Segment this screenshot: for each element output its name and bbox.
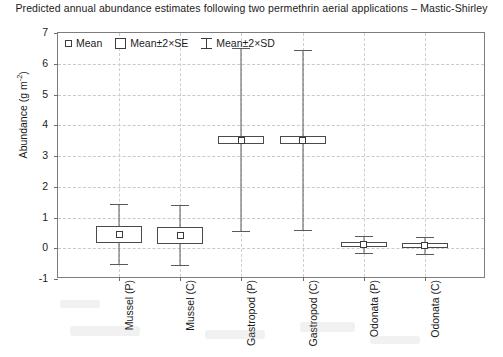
sd-cap-upper xyxy=(171,205,189,206)
gridline-horizontal xyxy=(58,187,484,188)
gridline-horizontal xyxy=(58,248,484,249)
gridline-horizontal xyxy=(58,125,484,126)
y-tick-label: -1 xyxy=(39,272,48,284)
mean-marker xyxy=(238,137,245,144)
y-tick-label: 5 xyxy=(42,88,48,100)
mean-marker-icon xyxy=(65,40,72,47)
se-box-icon xyxy=(115,38,126,49)
sd-cap-lower xyxy=(171,265,189,266)
scan-artifact xyxy=(370,336,420,344)
legend-item-se: Mean±2×SE xyxy=(115,37,188,49)
y-tick-mark xyxy=(54,218,58,219)
sd-cap-lower xyxy=(294,230,312,231)
y-axis-tick-labels: -101234567 xyxy=(0,32,55,278)
scan-artifact xyxy=(205,330,265,339)
y-tick-mark xyxy=(54,95,58,96)
chart-title: Predicted annual abundance estimates fol… xyxy=(0,2,503,14)
y-tick-label: 3 xyxy=(42,149,48,161)
y-tick-label: 2 xyxy=(42,180,48,192)
gridline-horizontal xyxy=(58,64,484,65)
gridline-horizontal xyxy=(58,218,484,219)
sd-cap-lower xyxy=(416,254,434,255)
gridline-horizontal xyxy=(58,156,484,157)
legend-item-mean: Mean xyxy=(65,37,102,49)
y-tick-mark xyxy=(54,248,58,249)
mean-marker xyxy=(299,137,306,144)
error-bar-icon xyxy=(201,38,212,49)
x-tick-label: Odonata (P) xyxy=(368,280,380,337)
sd-cap-upper xyxy=(110,204,128,205)
y-tick-label: 4 xyxy=(42,118,48,130)
x-axis-tick-labels: Mussel (P)Mussel (C)Gastropod (P)Gastrop… xyxy=(57,278,485,357)
mean-marker xyxy=(116,231,123,238)
x-tick-label: Odonata (C) xyxy=(429,280,441,338)
legend-label-se: Mean±2×SE xyxy=(130,37,188,49)
y-tick-mark xyxy=(54,33,58,34)
scan-artifact xyxy=(300,322,355,332)
sd-cap-lower xyxy=(110,264,128,265)
gridline-horizontal xyxy=(58,95,484,96)
sd-cap-upper xyxy=(416,237,434,238)
y-tick-label: 7 xyxy=(42,26,48,38)
scan-artifact-line xyxy=(120,0,380,1)
x-tick-label: Mussel (C) xyxy=(184,280,196,331)
x-tick-label: Gastropod (C) xyxy=(307,280,319,347)
sd-cap-upper xyxy=(294,50,312,51)
y-tick-mark xyxy=(54,156,58,157)
mean-marker xyxy=(360,241,367,248)
legend-label-mean: Mean xyxy=(76,37,102,49)
x-tick-label: Mussel (P) xyxy=(123,280,135,330)
legend-item-sd: Mean±2×SD xyxy=(201,37,275,49)
mean-marker xyxy=(177,232,184,239)
mean-marker xyxy=(421,242,428,249)
scan-artifact xyxy=(60,300,100,308)
y-tick-mark xyxy=(54,64,58,65)
y-tick-mark xyxy=(54,187,58,188)
scan-artifact xyxy=(70,326,140,336)
sd-cap-lower xyxy=(355,253,373,254)
y-tick-label: 6 xyxy=(42,57,48,69)
chart-legend: Mean Mean±2×SE Mean±2×SD xyxy=(62,36,278,50)
sd-cap-lower xyxy=(232,231,250,232)
y-tick-label: 1 xyxy=(42,211,48,223)
legend-label-sd: Mean±2×SD xyxy=(216,37,275,49)
plot-area: Mean Mean±2×SE Mean±2×SD xyxy=(57,32,485,278)
y-tick-label: 0 xyxy=(42,241,48,253)
y-tick-mark xyxy=(54,125,58,126)
sd-cap-upper xyxy=(355,236,373,237)
